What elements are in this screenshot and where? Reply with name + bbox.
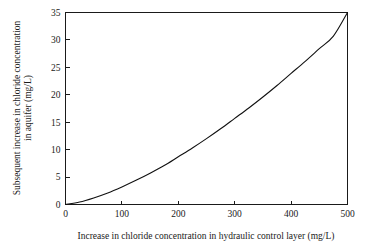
chart-canvas: 05101520253035 0100200300400500 Increase… xyxy=(0,0,365,248)
plot-frame xyxy=(66,13,348,205)
x-axis-title: Increase in chloride concentration in hy… xyxy=(78,231,335,242)
x-axis-ticks xyxy=(66,201,348,205)
data-curve-line xyxy=(66,13,348,205)
y-tick-label: 0 xyxy=(56,200,61,210)
y-tick-label: 15 xyxy=(51,118,61,128)
y-axis-tick-labels: 05101520253035 xyxy=(51,8,61,210)
y-tick-label: 25 xyxy=(51,63,61,73)
x-axis-tick-labels: 0100200300400500 xyxy=(63,209,355,219)
x-tick-label: 300 xyxy=(228,209,243,219)
x-tick-label: 500 xyxy=(340,209,355,219)
y-tick-label: 30 xyxy=(51,35,61,45)
y-axis-title-line2: in aquifer (mg/L) xyxy=(23,75,34,141)
y-tick-label: 35 xyxy=(51,8,61,18)
x-tick-label: 0 xyxy=(63,209,68,219)
x-tick-label: 100 xyxy=(115,209,130,219)
y-axis-ticks xyxy=(66,13,70,205)
y-tick-label: 20 xyxy=(51,90,61,100)
figure-container: 05101520253035 0100200300400500 Increase… xyxy=(0,0,365,248)
y-tick-label: 10 xyxy=(51,145,61,155)
y-tick-label: 5 xyxy=(56,172,61,182)
y-axis-title-line1: Subsequent increase in chloride concentr… xyxy=(12,20,22,195)
x-tick-label: 200 xyxy=(171,209,186,219)
x-tick-label: 400 xyxy=(284,209,299,219)
